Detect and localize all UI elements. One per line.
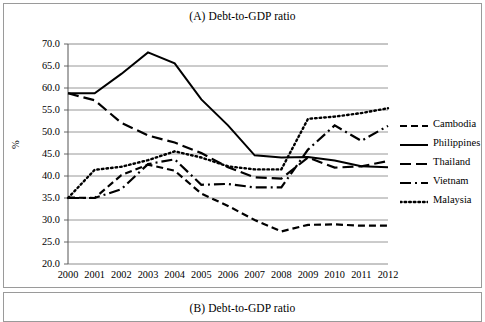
x-tick-label: 2011	[344, 269, 378, 280]
x-tick-label: 2002	[104, 269, 138, 280]
legend-swatch-philippines	[400, 137, 428, 149]
legend-item-vietnam[interactable]: Vietnam	[400, 171, 485, 190]
y-axis-label: %	[10, 140, 21, 149]
y-tick-label: 30.0	[26, 214, 60, 225]
legend-item-cambodia[interactable]: Cambodia	[400, 114, 485, 133]
y-tick-label: 60.0	[26, 82, 60, 93]
y-tick-label: 55.0	[26, 104, 60, 115]
x-tick-label: 2012	[371, 269, 405, 280]
chart-title-b: (B) Debt-to-GDP ratio	[4, 302, 481, 314]
x-tick-label: 2004	[158, 269, 192, 280]
chart-panel-b: (B) Debt-to-GDP ratio	[3, 292, 482, 322]
series-line-philippines	[68, 52, 388, 167]
y-tick-label: 20.0	[26, 258, 60, 269]
series-line-malaysia	[68, 108, 388, 198]
y-tick-label: 70.0	[26, 38, 60, 49]
legend-label: Vietnam	[433, 175, 469, 186]
legend-label: Malaysia	[433, 194, 472, 205]
x-tick-label: 2000	[51, 269, 85, 280]
y-tick-label: 40.0	[26, 170, 60, 181]
legend-swatch-vietnam	[400, 175, 428, 187]
chart-legend: CambodiaPhilippinesThailandVietnamMalays…	[400, 114, 485, 209]
x-tick-label: 2006	[211, 269, 245, 280]
y-tick-label: 45.0	[26, 148, 60, 159]
chart-title-a: (A) Debt-to-GDP ratio	[4, 10, 481, 22]
legend-swatch-thailand	[400, 156, 428, 168]
x-tick-label: 2008	[264, 269, 298, 280]
x-tick-label: 2003	[131, 269, 165, 280]
data-series-layer	[68, 44, 388, 264]
y-tick-label: 25.0	[26, 236, 60, 247]
legend-label: Cambodia	[433, 118, 476, 129]
legend-swatch-cambodia	[400, 118, 428, 130]
legend-item-malaysia[interactable]: Malaysia	[400, 190, 485, 209]
legend-swatch-malaysia	[400, 194, 428, 206]
y-tick-label: 50.0	[26, 126, 60, 137]
series-line-cambodia	[68, 165, 388, 232]
y-tick-label: 65.0	[26, 60, 60, 71]
plot-area	[68, 44, 388, 264]
x-tick-label: 2001	[78, 269, 112, 280]
x-tick-label: 2009	[291, 269, 325, 280]
x-tick-label: 2010	[318, 269, 352, 280]
y-tick-label: 35.0	[26, 192, 60, 203]
legend-label: Thailand	[433, 156, 470, 167]
legend-item-thailand[interactable]: Thailand	[400, 152, 485, 171]
x-tick-label: 2007	[238, 269, 272, 280]
chart-panel-a: (A) Debt-to-GDP ratio % 70.065.060.055.0…	[3, 3, 482, 288]
legend-item-philippines[interactable]: Philippines	[400, 133, 485, 152]
legend-label: Philippines	[433, 137, 480, 148]
x-tick-label: 2005	[184, 269, 218, 280]
